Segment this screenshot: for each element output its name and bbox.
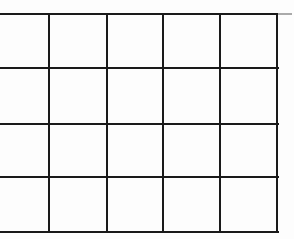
grid-cell [50, 15, 106, 67]
grid-cell [221, 125, 276, 176]
empty-grid [0, 0, 294, 239]
grid-cell [108, 69, 162, 123]
grid-cell [0, 69, 48, 123]
grid-line-extension [278, 13, 292, 15]
grid-cell [164, 15, 219, 67]
grid-line-right [276, 13, 278, 233]
grid-cell [221, 69, 276, 123]
grid-cell [164, 69, 219, 123]
grid-cell [50, 125, 106, 176]
grid-cell [221, 15, 276, 67]
grid-line-bottom [0, 231, 279, 233]
grid-cell [108, 15, 162, 67]
grid-cell [164, 178, 219, 231]
grid-cell [221, 178, 276, 231]
grid-cell [0, 125, 48, 176]
grid-cell [0, 15, 48, 67]
grid-cell [164, 125, 219, 176]
grid-cell [108, 178, 162, 231]
grid-cell [50, 69, 106, 123]
grid-cell [0, 178, 48, 231]
grid-cell [50, 178, 106, 231]
grid-cell [108, 125, 162, 176]
